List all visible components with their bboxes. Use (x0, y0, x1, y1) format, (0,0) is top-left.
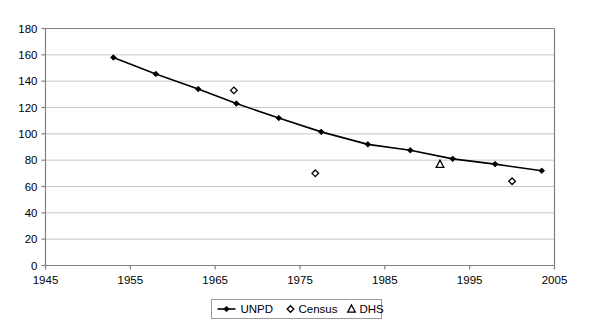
legend-label: Census (299, 303, 338, 315)
data-point-marker (312, 170, 319, 177)
x-tick-label: 1965 (202, 274, 228, 286)
data-point-marker (436, 160, 444, 167)
data-point-marker (276, 115, 282, 121)
chart-container: 0204060801001201401601801945195519651975… (0, 0, 592, 333)
legend-box (212, 300, 382, 319)
y-tick-label: 0 (31, 260, 37, 272)
data-point-marker (509, 178, 516, 185)
data-point-marker (234, 101, 240, 107)
x-axis-ticks: 1945195519651975198519952005 (33, 266, 568, 286)
x-tick-label: 1955 (118, 274, 144, 286)
series-dhs (436, 160, 444, 167)
series-unpd (111, 55, 545, 174)
gridlines-group (46, 55, 555, 239)
x-tick-label: 2005 (542, 274, 568, 286)
data-point-marker (450, 156, 456, 162)
chart-legend: UNPDCensusDHS (212, 300, 385, 319)
series-census (231, 87, 516, 184)
series-line-unpd (113, 57, 541, 170)
y-tick-label: 140 (18, 75, 37, 87)
x-tick-label: 1995 (457, 274, 483, 286)
x-tick-label: 1945 (33, 274, 59, 286)
legend-label: UNPD (241, 303, 274, 315)
data-point-marker (365, 142, 371, 148)
y-tick-label: 20 (25, 233, 38, 245)
x-tick-label: 1975 (287, 274, 313, 286)
y-axis-ticks: 020406080100120140160180 (18, 23, 45, 272)
data-point-marker (153, 71, 159, 77)
y-tick-label: 40 (25, 207, 38, 219)
data-point-marker (407, 147, 413, 153)
y-tick-label: 180 (18, 23, 37, 35)
data-point-marker (539, 168, 545, 174)
data-point-marker (231, 87, 238, 94)
y-tick-label: 60 (25, 181, 38, 193)
axes-group (46, 29, 555, 266)
y-tick-label: 160 (18, 49, 37, 61)
x-tick-label: 1985 (372, 274, 398, 286)
data-point-marker (111, 55, 117, 61)
y-tick-label: 120 (18, 102, 37, 114)
y-tick-label: 80 (25, 154, 38, 166)
data-point-marker (195, 86, 201, 92)
data-point-marker (492, 161, 498, 167)
y-tick-label: 100 (18, 128, 37, 140)
legend-label: DHS (360, 303, 385, 315)
line-chart: 0204060801001201401601801945195519651975… (0, 0, 592, 333)
